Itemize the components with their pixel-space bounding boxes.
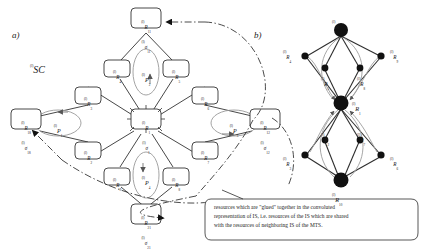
label-subscript: 5 (178, 80, 180, 84)
node-label-b-r9: (l)R9 (390, 45, 398, 64)
label-subscript: 6 (207, 107, 209, 111)
vertex-r5[interactable] (322, 65, 329, 72)
node-label-n-left: (l)R18(l)σ18 (11, 116, 41, 156)
vertex-r1[interactable] (334, 96, 349, 111)
node-label-n-top: (l)R11(l)σ11 (131, 15, 161, 55)
label-subscript: 4 (289, 60, 291, 64)
label-subscript: 2 (90, 161, 92, 165)
label-base: R (335, 23, 339, 30)
node-label-n-r9: (l)R9 (102, 173, 132, 193)
label-subscript: 1 (359, 112, 361, 116)
label-subscript: 11 (339, 30, 342, 34)
node-label-line: (l)R11 (131, 15, 161, 35)
process-label-p4[interactable]: (l)P4 (135, 171, 157, 190)
label-subscript: 6 (396, 167, 398, 171)
vertex-r6[interactable] (377, 151, 384, 158)
node-label-line: (l)R6 (190, 92, 220, 112)
label-subscript: 8 (363, 87, 365, 91)
label-subscript: 18 (28, 131, 31, 135)
node-label-b-r6: (l)R6 (390, 152, 398, 171)
label-subscript: 7 (363, 143, 365, 147)
node-label-n-r8: (l)R8 (161, 173, 191, 193)
label-subscript: 1 (148, 151, 150, 155)
node-label-n-r4: (l)R4 (102, 65, 132, 85)
label-subscript: 11 (147, 50, 150, 54)
node-label-n-bottom: (l)R21(l)σ21 (131, 211, 161, 249)
node-label-n-r3: (l)R3 (73, 92, 103, 112)
label-subscript: 7 (207, 161, 209, 165)
label-subscript: 9 (119, 188, 121, 192)
label-subscript: 8 (178, 188, 180, 192)
node-label-line: (l)σ1 (131, 136, 161, 156)
label-subscript: 3 (90, 107, 92, 111)
node-label-b-r11: (l)R11 (332, 15, 342, 34)
label-subscript: 3 (237, 134, 239, 138)
vertex-r10[interactable] (334, 173, 349, 188)
node-label-line: (l)σ11 (131, 35, 161, 55)
process-label-p1[interactable]: (l)P1 (47, 119, 69, 138)
node-label-line: (l)R4 (102, 65, 132, 85)
node-label-n-r2: (l)R2 (73, 146, 103, 166)
caption-block: resources which are "glued" together in … (214, 203, 414, 229)
node-label-n-r5: (l)R5 (161, 65, 191, 85)
process-label-p3[interactable]: (l)P3 (223, 119, 245, 138)
vertex-r3[interactable] (301, 151, 308, 158)
figure-root: a) b) (l)SC (0, 0, 423, 249)
node-label-line: (l)R1 (131, 116, 161, 136)
node-label-b-r8: (l)R8 (357, 72, 365, 91)
node-label-b-r5: (l)R5 (321, 72, 329, 91)
node-label-n-r7: (l)R7 (190, 146, 220, 166)
node-label-line: (l)R2 (73, 146, 103, 166)
label-subscript: 1 (148, 131, 150, 135)
caption-line-3: with the resources of neighboring IS of … (214, 221, 414, 230)
node-label-b-r7: (l)R7 (357, 128, 365, 147)
label-subscript: 18 (27, 151, 30, 155)
label-subscript: 5 (327, 87, 329, 91)
label-subscript: 2 (327, 143, 329, 147)
label-subscript: 4 (149, 186, 151, 190)
node-label-line: (l)R8 (161, 173, 191, 193)
node-label-n-center: (l)R1(l)σ1 (131, 116, 161, 156)
node-label-line: (l)σ21 (131, 231, 161, 249)
node-label-line: (l)R7 (190, 146, 220, 166)
panel-b-vertices (301, 23, 384, 188)
node-label-b-r1: (l)R1 (352, 97, 361, 116)
label-subscript: 9 (396, 60, 398, 64)
label-subscript: 1 (61, 134, 63, 138)
label-subscript: 11 (148, 30, 151, 34)
node-label-b-r4: (l)R4 (283, 45, 291, 64)
process-label-p2[interactable]: (l)P2 (135, 68, 157, 87)
node-label-line: (l)R9 (102, 173, 132, 193)
label-base: R (335, 196, 339, 203)
node-label-line: (l)σ18 (11, 136, 41, 156)
vertex-r9[interactable] (377, 52, 384, 59)
label-subscript: 2 (149, 83, 151, 87)
node-label-n-r6: (l)R6 (190, 92, 220, 112)
vertex-r4[interactable] (301, 52, 308, 59)
node-label-line: (l)R5 (161, 65, 191, 85)
node-label-line: (l)R18 (11, 116, 41, 136)
label-subscript: 12 (266, 151, 269, 155)
label-base: R (355, 105, 359, 112)
label-subscript: 4 (119, 80, 121, 84)
node-label-line: (l)R21 (131, 211, 161, 231)
label-subscript: 3 (289, 167, 291, 171)
vertex-r8[interactable] (357, 65, 364, 72)
caption-line-2: representation of IS, i.e. resources of … (214, 212, 414, 221)
node-label-n-right: (l)R12(l)σ12 (250, 116, 280, 156)
label-subscript: 12 (267, 131, 270, 135)
node-label-line: (l)R3 (73, 92, 103, 112)
caption-line-1: resources which are "glued" together in … (214, 203, 414, 212)
label-subscript: 21 (148, 226, 151, 230)
node-label-line: (l)R12 (250, 116, 280, 136)
node-label-line: (l)σ12 (250, 136, 280, 156)
node-label-b-r3: (l)R3 (283, 152, 291, 171)
node-label-b-r2: (l)R2 (321, 128, 329, 147)
